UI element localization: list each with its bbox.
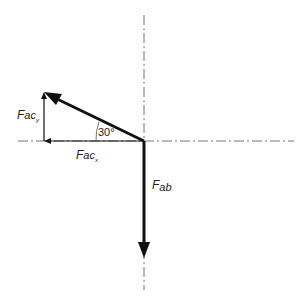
fab-label: Fab (152, 178, 172, 193)
force-diagram: Facy Facx Fab 30° (0, 0, 303, 297)
fac-x-label: Facx (76, 148, 99, 163)
angle-label: 30° (98, 126, 115, 138)
fac-y-label: Facy (17, 108, 40, 123)
fab-arrowhead (138, 242, 150, 258)
fac-x-arrowhead (44, 138, 51, 144)
